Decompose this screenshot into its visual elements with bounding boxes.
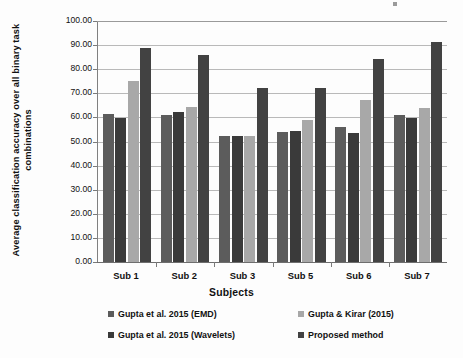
y-axis-tick-label: 80.00 [36,64,92,73]
bar-chart-figure: Average classification accuracy over all… [0,0,463,358]
legend-swatch-icon [108,311,114,317]
legend-swatch-icon [298,311,304,317]
y-axis-tick-label: 50.00 [36,137,92,146]
bar [219,136,230,262]
legend-item: Gupta et al. 2015 (EMD) [108,309,217,319]
legend-item: Gupta et al. 2015 (Wavelets) [108,330,235,340]
bar [161,115,172,262]
y-axis-tick-label: 20.00 [36,209,92,218]
legend-item-label: Gupta & Kirar (2015) [308,309,394,319]
legend-item-label: Gupta et al. 2015 (EMD) [118,309,217,319]
bar [257,88,268,262]
x-axis-tick-mark [273,262,274,267]
bar-group [331,21,389,262]
bar [290,131,301,262]
legend-swatch-icon [298,332,304,338]
bar [198,55,209,262]
bar [103,114,114,262]
bar-group [273,21,331,262]
bar [173,112,184,262]
legend-item: Gupta & Kirar (2015) [298,309,394,319]
y-axis-title-text: Average classification accuracy over all… [10,18,34,262]
legend-item-label: Proposed method [308,330,383,340]
y-axis-tick-label: 60.00 [36,112,92,121]
x-axis-title: Subjects [0,287,463,298]
stray-scan-mark [393,2,397,6]
bar [335,127,346,262]
chart-legend: Gupta et al. 2015 (EMD)Gupta & Kirar (20… [100,309,445,351]
x-axis-tick-mark [214,262,215,267]
plot-top-rule [97,21,446,22]
y-axis-tick-label: 70.00 [36,88,92,97]
bar [373,59,384,262]
x-axis-category-label: Sub 1 [96,270,156,281]
bar-group [389,21,447,262]
bar [315,88,326,262]
bar [277,132,288,262]
x-axis-category-label: Sub 7 [387,270,447,281]
bar [186,107,197,262]
y-axis-tick-label: 40.00 [36,161,92,170]
bar [406,118,417,262]
x-axis-tick-mark [331,262,332,267]
legend-swatch-icon [108,332,114,338]
plot-area [97,21,447,262]
y-axis-tick-label: 10.00 [36,233,92,242]
y-axis-tick-label: 0.00 [36,257,92,266]
bar-group [98,21,156,262]
x-axis-category-label: Sub 5 [271,270,331,281]
bar [244,136,255,262]
x-axis-category-label: Sub 3 [212,270,272,281]
x-axis-category-label: Sub 2 [154,270,214,281]
bar [128,81,139,262]
bar [394,115,405,262]
bar-group [156,21,214,262]
y-axis-tick-label: 90.00 [36,40,92,49]
x-axis-tick-mark [156,262,157,267]
legend-item: Proposed method [298,330,383,340]
bar [419,108,430,262]
bar [115,118,126,262]
bar [348,133,359,262]
legend-item-label: Gupta et al. 2015 (Wavelets) [118,330,235,340]
bar [360,100,371,262]
bar [431,42,442,262]
bar [232,136,243,262]
bar-group [214,21,272,262]
bar [302,120,313,262]
x-axis-tick-mark [389,262,390,267]
y-axis-title: Average classification accuracy over all… [8,18,36,262]
y-axis-tick-label: 30.00 [36,185,92,194]
bar [140,48,151,262]
y-axis-tick-label: 100.00 [36,16,92,25]
x-axis-category-label: Sub 6 [329,270,389,281]
